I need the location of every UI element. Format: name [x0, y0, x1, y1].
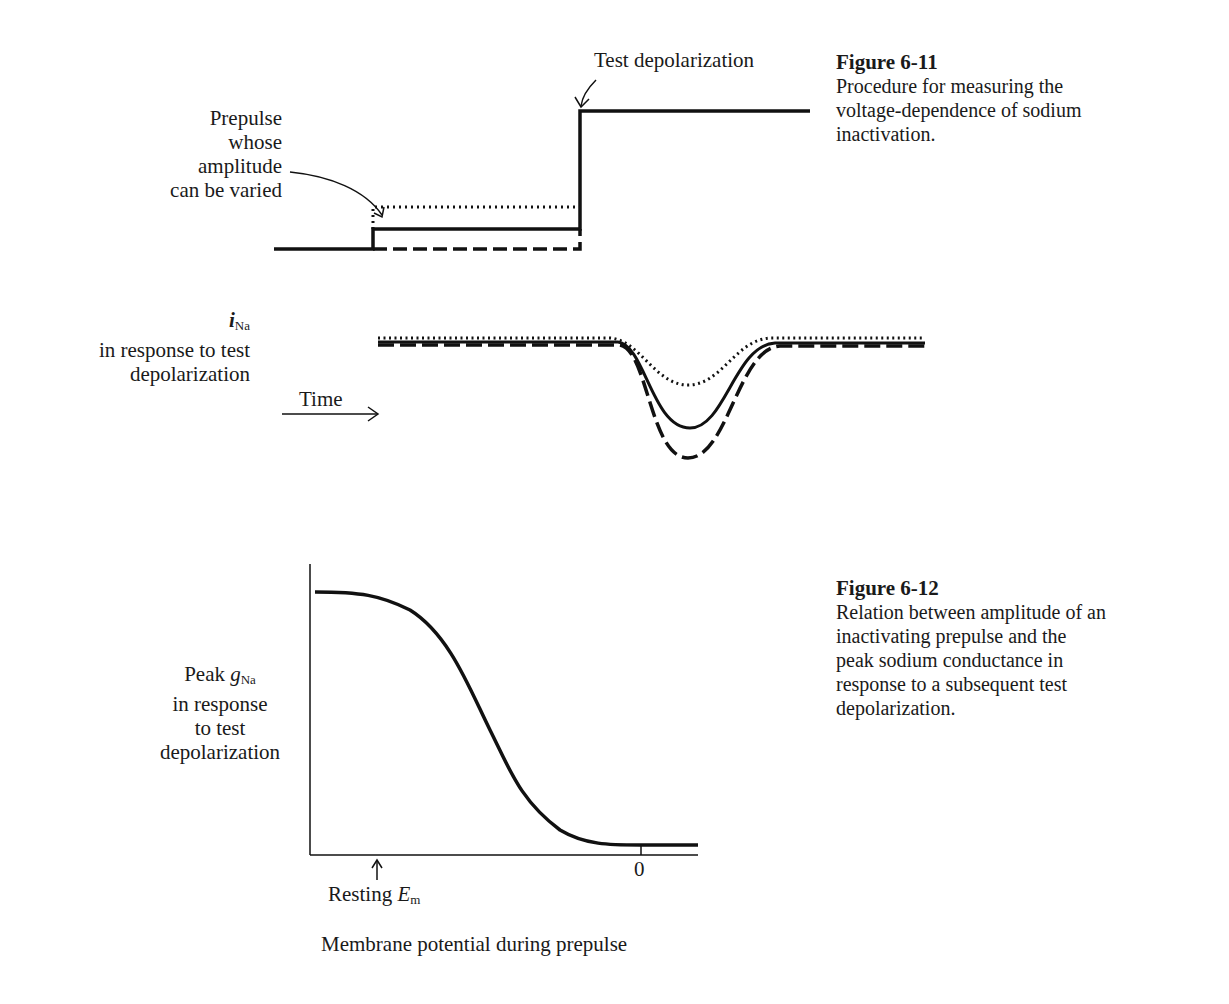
zero-tick-label: 0: [634, 857, 645, 881]
prepulse-label: Prepulse whose amplitude can be varied: [150, 106, 282, 202]
resting-em-label: Resting Em: [328, 882, 420, 912]
y-label-line: in response: [140, 692, 300, 716]
inactivation-curve: [315, 592, 698, 845]
caption-line: peak sodium conductance in: [836, 648, 1216, 672]
y-label-symbol: Peak gNa: [140, 662, 300, 692]
caption-line: Relation between amplitude of an: [836, 600, 1216, 624]
ina-label-line: depolarization: [30, 362, 250, 386]
prepulse-label-line: whose amplitude: [150, 130, 282, 178]
y-label-line: depolarization: [140, 740, 300, 764]
ina-label-line: in response to test: [30, 338, 250, 362]
figure-6-12-caption: Figure 6-12 Relation between amplitude o…: [836, 576, 1216, 720]
caption-line: voltage-dependence of sodium: [836, 98, 1196, 122]
dashed-current-trace: [378, 345, 925, 458]
prepulse-arrow: [290, 172, 382, 215]
time-label: Time: [299, 387, 343, 411]
current-responses: [282, 338, 925, 458]
fig-6-12-axes: [310, 564, 698, 880]
voltage-protocol: [274, 80, 810, 249]
prepulse-label-line: Prepulse: [150, 106, 282, 130]
solid-voltage-trace: [274, 111, 810, 249]
ina-label: iNa in response to test depolarization: [30, 308, 250, 386]
prepulse-label-line: can be varied: [150, 178, 282, 202]
figure-6-11-caption: Figure 6-11 Procedure for measuring the …: [836, 50, 1196, 146]
caption-line: Procedure for measuring the: [836, 74, 1196, 98]
ina-symbol: iNa: [30, 308, 250, 338]
dashed-voltage-trace: [373, 229, 580, 249]
caption-title: Figure 6-11: [836, 50, 1196, 74]
y-axis-label: Peak gNa in response to test depolarizat…: [140, 662, 300, 764]
caption-line: depolarization.: [836, 696, 1216, 720]
y-label-line: to test: [140, 716, 300, 740]
caption-line: response to a subsequent test: [836, 672, 1216, 696]
solid-current-trace: [378, 342, 925, 428]
dotted-voltage-trace: [373, 207, 580, 229]
caption-line: inactivating prepulse and the: [836, 624, 1216, 648]
test-depolarization-label: Test depolarization: [594, 48, 754, 72]
x-axis-label: Membrane potential during prepulse: [321, 932, 627, 956]
test-depol-arrow: [581, 80, 596, 106]
caption-line: inactivation.: [836, 122, 1196, 146]
caption-title: Figure 6-12: [836, 576, 1216, 600]
